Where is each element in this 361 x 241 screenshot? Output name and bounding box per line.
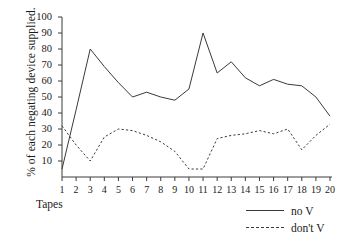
legend-line-solid-icon xyxy=(246,210,284,212)
legend-line-dashed-icon xyxy=(246,227,284,229)
y-tick-label: 80 xyxy=(26,44,52,55)
x-axis-title: Tapes xyxy=(36,198,63,210)
y-tick-label: 30 xyxy=(26,124,52,135)
y-tick-label: 100 xyxy=(26,12,52,23)
legend-label-no-v: no V xyxy=(291,205,313,217)
series-line-no-v xyxy=(62,33,330,169)
y-tick-label: 60 xyxy=(26,76,52,87)
legend-item-no-v: no V xyxy=(246,202,325,219)
chart-figure: % of each negating device supplied. 1020… xyxy=(0,0,361,241)
x-tick-label: 20 xyxy=(321,185,339,195)
y-tick-label: 90 xyxy=(26,28,52,39)
series-line-don-t-v xyxy=(62,124,330,169)
y-tick-label: 10 xyxy=(26,156,52,167)
y-tick-label: 70 xyxy=(26,60,52,71)
y-tick-label: 20 xyxy=(26,140,52,151)
legend-item-dont-v: don't V xyxy=(246,219,325,236)
y-tick-label: 50 xyxy=(26,92,52,103)
chart-legend: no V don't V xyxy=(246,202,325,236)
y-tick-label: 40 xyxy=(26,108,52,119)
legend-label-dont-v: don't V xyxy=(291,222,325,234)
